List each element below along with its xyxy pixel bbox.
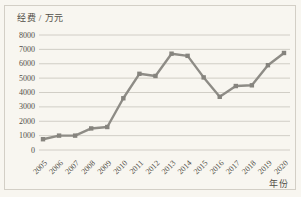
data-point [169,51,173,55]
y-tick-label: 7000 [19,45,35,54]
data-point [41,137,45,141]
data-point [105,125,109,129]
data-point [250,83,254,87]
data-point [218,95,222,99]
y-tick-label: 0 [31,146,35,155]
data-point [57,133,61,137]
y-axis-tick-labels: 010002000300040005000600070008000 [19,31,35,155]
y-tick-label: 1000 [19,131,35,140]
data-point [137,72,141,76]
data-point [282,51,286,55]
data-point [153,74,157,78]
y-tick-label: 8000 [19,31,35,40]
data-point [73,133,77,137]
y-tick-label: 5000 [19,74,35,83]
chart-container: 010002000300040005000600070008000 200520… [0,0,301,197]
data-point [234,84,238,88]
y-tick-label: 3000 [19,102,35,111]
data-point [89,126,93,130]
data-point [185,54,189,58]
y-axis-title: 经费 / 万元 [17,12,64,23]
y-tick-label: 4000 [19,88,35,97]
y-tick-label: 2000 [19,117,35,126]
x-axis-title: 年份 [269,178,289,189]
line-chart: 010002000300040005000600070008000 200520… [0,0,301,197]
y-tick-label: 6000 [19,59,35,68]
data-point [121,96,125,100]
data-point [266,63,270,67]
data-point [201,75,205,79]
